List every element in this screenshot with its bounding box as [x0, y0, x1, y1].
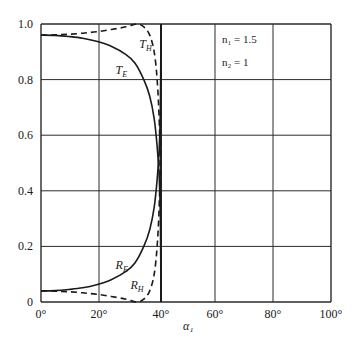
x-tick-label: 0° — [36, 307, 47, 321]
curve-label: TH — [139, 37, 153, 53]
n1-annotation: n₁ = 1.5 — [222, 33, 257, 45]
curve-label: RE — [115, 258, 128, 274]
y-tick-label: 0.8 — [18, 73, 33, 87]
curves — [41, 24, 161, 302]
curve-label: RH — [129, 278, 144, 294]
y-tick-label: 0.6 — [18, 128, 33, 142]
y-tick-label: 0.4 — [18, 184, 33, 198]
grid — [41, 24, 331, 302]
x-axis-label: α₁ — [183, 319, 193, 333]
x-tick-label: 80° — [265, 307, 282, 321]
x-tick-label: 40° — [153, 307, 170, 321]
fresnel-chart: 0°20°40°60°80°100°00.20.40.60.81.0 THTER… — [0, 0, 357, 346]
y-tick-label: 1.0 — [18, 17, 33, 31]
y-tick-label: 0 — [27, 295, 33, 309]
curve-labels: THTERERH — [115, 37, 153, 295]
x-tick-label: 100° — [320, 307, 343, 321]
x-tick-label: 20° — [91, 307, 108, 321]
x-tick-label: 60° — [207, 307, 224, 321]
curve-t-h — [41, 24, 161, 302]
curve-r-e — [41, 24, 161, 291]
y-tick-label: 0.2 — [18, 239, 33, 253]
tick-labels: 0°20°40°60°80°100°00.20.40.60.81.0 — [18, 17, 343, 321]
curve-t-e — [41, 35, 161, 302]
curve-label: TE — [116, 63, 128, 79]
n2-annotation: n₂ = 1 — [222, 56, 249, 68]
curve-r-h — [41, 24, 161, 302]
